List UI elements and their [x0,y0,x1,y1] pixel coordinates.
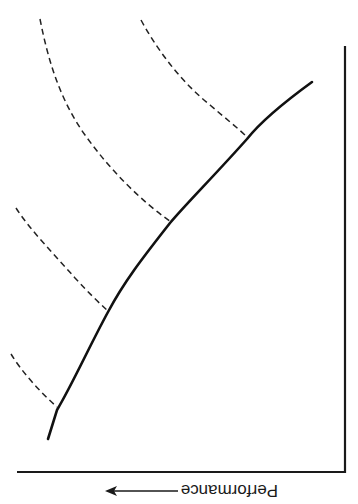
main-curve [48,82,312,439]
axis-label-group: Performance [105,481,278,500]
arrow-icon [105,486,178,496]
dashed-curve-2 [141,20,247,137]
dashed-curve-1 [40,19,171,222]
dashed-curve-3 [16,208,108,311]
performance-diagram: Performance [0,0,358,504]
performance-label: Performance [181,481,278,500]
dashed-curve-4 [11,354,57,407]
